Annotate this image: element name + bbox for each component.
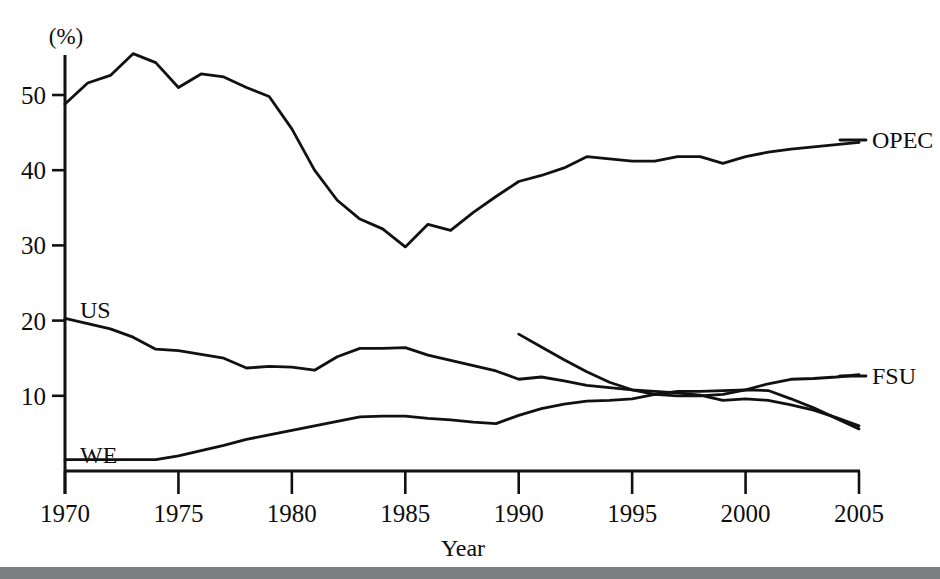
x-tick-label-2005: 2005 — [834, 500, 884, 527]
x-tick-label-2000: 2000 — [721, 500, 771, 527]
series-label-opec: OPEC — [872, 127, 933, 153]
bottom-border-strip — [0, 567, 940, 579]
series-line-fsu — [519, 334, 859, 396]
y-axis-tick-labels: 1020304050 — [21, 82, 46, 410]
series-lines — [65, 54, 859, 460]
series-label-us: US — [80, 297, 111, 323]
y-tick-label-20: 20 — [21, 308, 46, 335]
y-tick-label-10: 10 — [21, 383, 46, 410]
series-label-we: WE — [80, 442, 117, 468]
x-tick-label-1975: 1975 — [153, 500, 203, 527]
x-tick-label-1970: 1970 — [40, 500, 90, 527]
y-tick-label-50: 50 — [21, 82, 46, 109]
y-axis-unit-label: (%) — [49, 24, 83, 49]
y-tick-label-30: 30 — [21, 232, 46, 259]
line-chart: (%) 1020304050 1970197519801985199019952… — [0, 0, 940, 579]
series-label-fsu: FSU — [872, 363, 916, 389]
chart-figure: (%) 1020304050 1970197519801985199019952… — [0, 0, 940, 579]
x-tick-label-1980: 1980 — [267, 500, 317, 527]
series-line-us — [65, 318, 859, 426]
x-axis-title: Year — [441, 535, 485, 561]
x-tick-label-1995: 1995 — [607, 500, 657, 527]
x-tick-label-1990: 1990 — [494, 500, 544, 527]
y-tick-label-40: 40 — [21, 157, 46, 184]
series-line-opec — [65, 54, 859, 247]
x-tick-label-1985: 1985 — [380, 500, 430, 527]
x-axis-ticks — [65, 471, 859, 494]
x-axis-tick-labels: 19701975198019851990199520002005 — [40, 500, 884, 527]
